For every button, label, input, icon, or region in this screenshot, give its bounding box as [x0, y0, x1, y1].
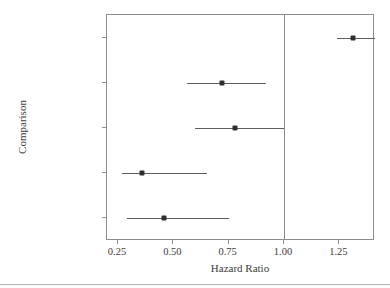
- confidence-interval-line: [122, 173, 206, 174]
- estimate-point-marker: [140, 171, 145, 176]
- reference-line-hr-1: [284, 15, 285, 239]
- confidence-interval-line: [195, 128, 284, 129]
- x-axis-tick-label: 0.75: [218, 246, 236, 257]
- page-edge-rule: [0, 284, 390, 285]
- x-axis-tick-label: 1.25: [329, 246, 347, 257]
- confidence-interval-line: [187, 83, 267, 84]
- x-axis-tick: [338, 240, 339, 244]
- estimate-point-marker: [233, 126, 238, 131]
- x-axis-tick-label: 0.25: [108, 246, 126, 257]
- estimate-point-marker: [162, 216, 167, 221]
- x-axis-tick: [172, 240, 173, 244]
- x-axis-tick: [228, 240, 229, 244]
- x-axis-tick-label: 0.50: [163, 246, 181, 257]
- confidence-interval-line: [127, 218, 229, 219]
- x-axis-tick: [117, 240, 118, 244]
- y-axis-title: Comparison: [16, 100, 28, 154]
- forest-plot-figure: pnodes Unit = 5horm Unit = 1tgrade II vs…: [0, 0, 390, 288]
- plot-panel: [106, 14, 374, 240]
- x-axis-tick-label: 1.00: [274, 246, 292, 257]
- confidence-interval-line: [337, 38, 375, 39]
- estimate-point-marker: [220, 80, 225, 85]
- estimate-point-marker: [350, 35, 355, 40]
- x-axis-tick: [283, 240, 284, 244]
- x-axis-title: Hazard Ratio: [211, 262, 269, 274]
